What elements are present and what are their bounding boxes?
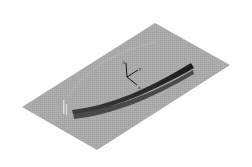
3d-scene: z y x xyxy=(0,0,252,167)
z-axis-label: z xyxy=(123,60,125,65)
ground-plane xyxy=(22,23,230,150)
left-post-2 xyxy=(66,104,67,115)
left-post xyxy=(63,100,65,114)
